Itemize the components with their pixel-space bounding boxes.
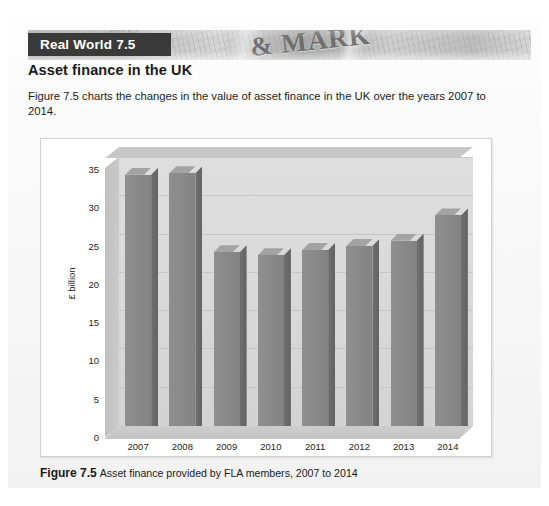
bar-front-face: [391, 241, 417, 426]
bar-2012[interactable]: [346, 246, 372, 426]
x-tick-label-2013: 2013: [385, 441, 423, 452]
box-subtitle: Asset finance in the UK: [28, 62, 192, 78]
real-world-box: OUR MONEY MATTERS & MARK Real World 7.5 …: [0, 0, 549, 506]
bar-side-face: [417, 234, 424, 426]
page-bottom-edge: [0, 489, 549, 506]
y-axis-title: £ billion: [66, 267, 77, 299]
bar-side-face: [240, 245, 247, 426]
bar-front-face: [214, 252, 240, 426]
bar-side-face: [151, 168, 158, 426]
x-tick-label-2009: 2009: [208, 441, 246, 452]
bar-front-face: [258, 255, 284, 426]
bar-front-face: [125, 175, 151, 426]
bar-side-face: [461, 208, 468, 426]
chart-card: 05101520253035 £ billion 200720082009201…: [40, 138, 492, 457]
figure-caption-text: Asset finance provided by FLA members, 2…: [100, 467, 358, 479]
chart-floor: [105, 426, 473, 439]
bar-2009[interactable]: [214, 252, 240, 426]
figure-caption: Figure 7.5 Asset finance provided by FLA…: [40, 466, 510, 480]
bar-2007[interactable]: [125, 175, 151, 426]
gridline: [119, 157, 473, 158]
bar-2013[interactable]: [391, 241, 417, 426]
bar-side-face: [328, 243, 335, 426]
x-tick-label-2007: 2007: [119, 441, 157, 452]
bar-side-face: [372, 239, 379, 426]
bar-front-face: [169, 173, 195, 426]
x-tick-label-2008: 2008: [163, 441, 201, 452]
banner-label: Real World 7.5: [28, 37, 136, 52]
box-body-text: Figure 7.5 charts the changes in the val…: [28, 89, 508, 119]
bar-2011[interactable]: [302, 250, 328, 426]
bar-front-face: [302, 250, 328, 426]
bar-2010[interactable]: [258, 255, 284, 426]
bar-side-face: [195, 166, 202, 426]
bar-2014[interactable]: [435, 215, 461, 426]
bar-chart: 05101520253035 £ billion 200720082009201…: [41, 139, 491, 456]
x-tick-label-2011: 2011: [296, 441, 334, 452]
x-tick-label-2012: 2012: [340, 441, 378, 452]
bar-side-face: [284, 248, 291, 426]
x-tick-label-2010: 2010: [252, 441, 290, 452]
bar-front-face: [346, 246, 372, 426]
figure-caption-label: Figure 7.5: [40, 466, 97, 480]
bar-front-face: [435, 215, 461, 426]
x-tick-label-2014: 2014: [429, 441, 467, 452]
real-world-banner: Real World 7.5: [28, 33, 171, 56]
bar-2008[interactable]: [169, 173, 195, 426]
